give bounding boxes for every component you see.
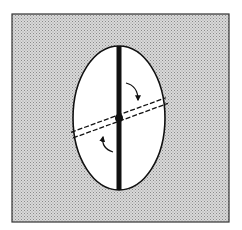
- diagram-canvas: [0, 0, 242, 230]
- center-pivot: [115, 114, 123, 122]
